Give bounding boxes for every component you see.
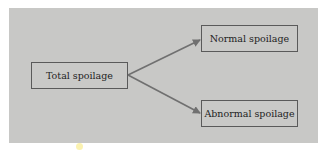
node-normal-spoilage: Normal spoilage xyxy=(201,25,298,52)
node-total-spoilage: Total spoilage xyxy=(31,62,128,89)
yellow-spot xyxy=(76,143,83,150)
node-label: Normal spoilage xyxy=(210,33,289,44)
node-abnormal-spoilage: Abnormal spoilage xyxy=(201,100,298,127)
node-label: Total spoilage xyxy=(46,70,113,81)
node-label: Abnormal spoilage xyxy=(204,108,294,119)
